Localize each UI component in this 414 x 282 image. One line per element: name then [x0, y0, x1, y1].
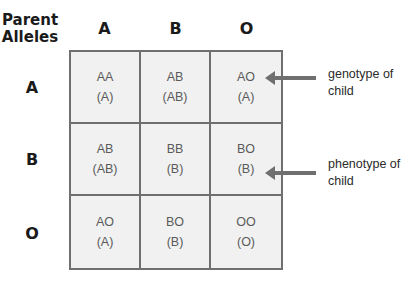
genotype-annotation: genotype of child: [328, 66, 408, 100]
column-header-o: O: [211, 19, 282, 38]
genotype: AO: [237, 67, 255, 87]
cell-a-b: AB (AB): [141, 52, 211, 124]
genotype: BB: [167, 139, 184, 159]
phenotype: (A): [238, 87, 255, 107]
genotype: AB: [97, 139, 114, 159]
cell-b-o: BO (B): [211, 124, 281, 196]
phenotype: (B): [167, 232, 184, 252]
phenotype: (AB): [163, 87, 188, 107]
genotype: AB: [167, 67, 184, 87]
phenotype: (A): [97, 232, 114, 252]
cell-b-a: AB (AB): [71, 124, 141, 196]
cell-o-o: OO (O): [211, 196, 281, 268]
row-header-b: B: [20, 150, 44, 169]
genotype: BO: [166, 212, 184, 232]
punnett-square-grid: AA (A) AB (AB) AO (A) AB (AB) BB (B) BO …: [69, 50, 283, 270]
phenotype: (O): [237, 232, 255, 252]
genotype: BO: [237, 139, 255, 159]
cell-b-b: BB (B): [141, 124, 211, 196]
phenotype: (A): [97, 87, 114, 107]
phenotype-annotation: phenotype of child: [328, 156, 414, 190]
genotype-arrow-icon: [273, 76, 316, 80]
cell-o-b: BO (B): [141, 196, 211, 268]
genotype: AA: [97, 67, 114, 87]
cell-o-a: AO (A): [71, 196, 141, 268]
genotype: AO: [96, 212, 114, 232]
genotype: OO: [236, 212, 255, 232]
phenotype: (B): [167, 159, 184, 179]
column-header-b: B: [140, 19, 211, 38]
cell-a-a: AA (A): [71, 52, 141, 124]
parent-alleles-label: Parent Alleles: [0, 12, 60, 46]
row-header-a: A: [20, 78, 44, 97]
phenotype-arrow-icon: [273, 171, 316, 175]
phenotype: (B): [238, 159, 255, 179]
phenotype: (AB): [93, 159, 118, 179]
row-header-o: O: [20, 224, 44, 243]
column-header-a: A: [69, 19, 140, 38]
cell-a-o: AO (A): [211, 52, 281, 124]
